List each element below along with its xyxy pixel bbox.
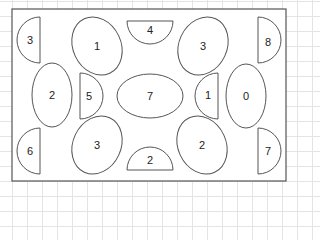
piece-value: 0 — [243, 90, 249, 102]
piece-ellipse[interactable]: 2 — [32, 63, 72, 127]
piece-value: 8 — [265, 36, 271, 48]
piece-value: 6 — [27, 145, 33, 157]
piece-ellipse[interactable]: 0 — [226, 64, 266, 128]
piece-value: 2 — [49, 89, 55, 101]
piece-value: 1 — [94, 40, 100, 52]
piece-value: 7 — [265, 145, 271, 157]
puzzle-board: 314382571063227 — [0, 0, 294, 186]
piece-value: 1 — [205, 89, 211, 101]
piece-value: 2 — [199, 139, 205, 151]
piece-value: 4 — [147, 24, 153, 36]
piece-value: 3 — [200, 40, 206, 52]
piece-value: 7 — [147, 90, 153, 102]
piece-value: 5 — [86, 90, 92, 102]
piece-value: 3 — [27, 34, 33, 46]
piece-value: 3 — [94, 139, 100, 151]
piece-ellipse[interactable]: 7 — [117, 74, 183, 118]
piece-value: 2 — [147, 154, 153, 166]
